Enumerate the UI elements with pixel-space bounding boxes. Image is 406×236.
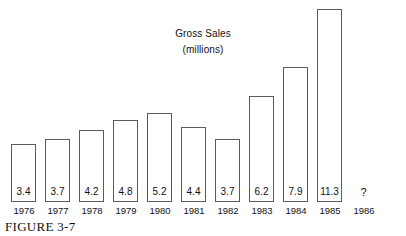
bar-chart-plot-area: 3.43.74.24.85.24.43.76.27.911.3? — [0, 0, 406, 204]
x-axis-label-1983: 1983 — [245, 204, 279, 218]
x-axis-label-1984: 1984 — [279, 204, 313, 218]
bar-column-1984: 7.9 — [279, 0, 313, 204]
x-axis-label-1977: 1977 — [41, 204, 75, 218]
x-axis-label-1981: 1981 — [177, 204, 211, 218]
bar-column-1985: 11.3 — [313, 0, 347, 204]
x-axis-label-1985: 1985 — [313, 204, 347, 218]
bar-column-1979: 4.8 — [109, 0, 143, 204]
bar-value-label-1977: 3.7 — [45, 185, 70, 199]
figure-caption-text: FIGURE 3-7 — [5, 219, 76, 234]
x-axis-label-1979: 1979 — [109, 204, 143, 218]
x-axis-label-1976: 1976 — [7, 204, 41, 218]
bar-column-1976: 3.4 — [7, 0, 41, 204]
figure-caption: FIGURE 3-7 — [5, 219, 76, 234]
bar-value-label-1983: 6.2 — [249, 185, 274, 199]
bar-value-label-1980: 5.2 — [147, 185, 172, 199]
bar-value-label-1985: 11.3 — [314, 185, 345, 199]
bar-column-1983: 6.2 — [245, 0, 279, 204]
bar-column-1981: 4.4 — [177, 0, 211, 204]
bar-value-label-1984: 7.9 — [283, 185, 308, 199]
bar-column-1980: 5.2 — [143, 0, 177, 204]
bar-1985 — [317, 9, 342, 202]
x-axis-label-1978: 1978 — [75, 204, 109, 218]
x-axis-label-1986: 1986 — [347, 204, 381, 218]
bar-value-label-1981: 4.4 — [181, 185, 206, 199]
x-axis-label-1982: 1982 — [211, 204, 245, 218]
bar-value-label-1979: 4.8 — [113, 185, 138, 199]
x-axis-year-labels: 1976197719781979198019811982198319841985… — [0, 204, 406, 220]
bar-column-1986: ? — [347, 0, 381, 204]
bar-1984 — [283, 67, 308, 202]
bar-value-label-1986: ? — [351, 185, 376, 199]
bar-value-label-1982: 3.7 — [215, 185, 240, 199]
x-axis-label-1980: 1980 — [143, 204, 177, 218]
bar-column-1977: 3.7 — [41, 0, 75, 204]
figure-3-7: Gross Sales (millions) 3.43.74.24.85.24.… — [0, 0, 406, 236]
bar-value-label-1978: 4.2 — [79, 185, 104, 199]
bar-value-label-1976: 3.4 — [11, 185, 36, 199]
bar-column-1982: 3.7 — [211, 0, 245, 204]
bar-column-1978: 4.2 — [75, 0, 109, 204]
